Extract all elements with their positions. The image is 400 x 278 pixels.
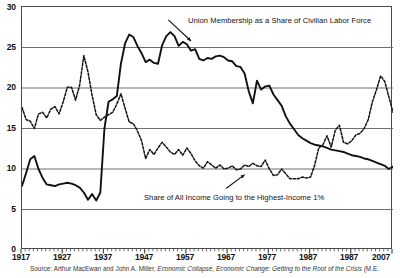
y-tick-label: 5 — [0, 204, 16, 214]
x-tick-label: 1977 — [250, 252, 284, 262]
source-title: Economic Collapse, Economic Change: Gett… — [157, 265, 362, 272]
annotation-union-membership: Union Membership as a Share of Civilian … — [188, 16, 371, 25]
annotation-top-income-share: Share of All Income Going to the Highest… — [144, 193, 324, 202]
x-tick-label: 2007 — [364, 252, 398, 262]
x-tick-label: 1917 — [4, 252, 38, 262]
y-tick-label: 25 — [0, 42, 16, 52]
y-tick-label: 30 — [0, 2, 16, 12]
source-authors: Arthur MacEwan and John A. Miller, — [54, 265, 156, 272]
plot-area — [21, 6, 392, 249]
y-tick-label: 15 — [0, 123, 16, 133]
source-publisher: (M.E. — [364, 265, 379, 272]
chart-canvas — [22, 7, 393, 250]
series-line-top-income-share — [22, 56, 393, 179]
data-series-layer — [22, 32, 393, 200]
x-tick-label: 1937 — [86, 252, 120, 262]
y-tick-label: 10 — [0, 163, 16, 173]
x-tick-label: 1987 — [332, 252, 366, 262]
y-tick-label: 20 — [0, 82, 16, 92]
series-line-union-membership — [22, 32, 393, 200]
x-tick-label: 1987 — [291, 252, 325, 262]
x-tick-label: 1957 — [168, 252, 202, 262]
source-label: Source: — [30, 265, 52, 272]
x-tick-label: 1947 — [127, 252, 161, 262]
x-tick-label: 1927 — [45, 252, 79, 262]
source-note: Source: Arthur MacEwan and John A. Mille… — [30, 265, 379, 272]
chart-figure: 30 25 20 15 10 5 0 1917 1927 1937 1947 1… — [0, 0, 400, 278]
x-tick-label: 1967 — [209, 252, 243, 262]
y-axis: 30 25 20 15 10 5 0 — [0, 0, 20, 278]
